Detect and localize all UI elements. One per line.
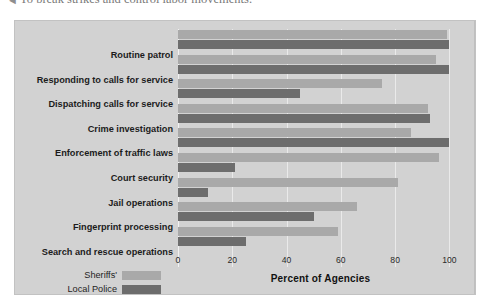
bar-row: [178, 201, 463, 226]
bar-row: [178, 54, 463, 79]
bar-sheriffs: [178, 128, 411, 137]
plot-area: [178, 29, 463, 251]
category-label: Responding to calls for service: [25, 75, 173, 85]
bar-local-police: [178, 65, 449, 74]
bar-local-police: [178, 138, 449, 147]
bar-rows: [178, 29, 463, 251]
bar-sheriffs: [178, 104, 428, 113]
legend-item[interactable]: Local Police: [29, 283, 169, 297]
x-axis-title: Percent of Agencies: [178, 273, 463, 284]
bar-local-police: [178, 89, 300, 98]
x-tick-label-20: 20: [228, 255, 238, 265]
bar-sheriffs: [178, 153, 439, 162]
x-tick-label-80: 80: [390, 255, 400, 265]
bar-sheriffs: [178, 30, 447, 39]
legend-label: Sheriffs': [84, 270, 117, 280]
legend-swatch: [122, 285, 161, 294]
category-label: Enforcement of traffic laws: [25, 148, 173, 158]
bar-chart-figure: Routine patrolResponding to calls for se…: [14, 20, 476, 295]
category-label: Court security: [25, 173, 173, 183]
category-label: Search and rescue operations: [25, 247, 173, 257]
page-caption-line: ◄ To break strikes and control labor mov…: [0, 0, 489, 16]
bar-sheriffs: [178, 55, 436, 64]
frame-edge-shade: [474, 21, 475, 294]
category-label: Routine patrol: [25, 50, 173, 60]
bar-local-police: [178, 237, 246, 246]
bar-sheriffs: [178, 227, 338, 236]
bar-sheriffs: [178, 202, 357, 211]
bar-row: [178, 127, 463, 152]
caption-bullet-icon: ◄: [7, 0, 18, 6]
category-label: Jail operations: [25, 198, 173, 208]
bar-sheriffs: [178, 178, 398, 187]
category-label: Crime investigation: [25, 124, 173, 134]
category-label: Dispatching calls for service: [25, 99, 173, 109]
bar-local-police: [178, 163, 235, 172]
bar-row: [178, 78, 463, 103]
bar-local-police: [178, 40, 449, 49]
bar-local-police: [178, 114, 430, 123]
bar-sheriffs: [178, 79, 382, 88]
x-axis-ticks: 020406080100: [178, 255, 463, 269]
category-label: Fingerprint processing: [25, 222, 173, 232]
bar-row: [178, 177, 463, 202]
x-tick-label-0: 0: [176, 255, 181, 265]
legend-label: Local Police: [67, 284, 117, 294]
x-tick-label-40: 40: [282, 255, 292, 265]
bar-row: [178, 226, 463, 251]
bar-local-police: [178, 212, 314, 221]
x-tick-label-60: 60: [336, 255, 346, 265]
bar-row: [178, 152, 463, 177]
chart-legend: Sheriffs'Local Police: [29, 269, 169, 297]
legend-item[interactable]: Sheriffs': [29, 269, 169, 283]
caption-text: To break strikes and control labor movem…: [20, 0, 252, 7]
bar-row: [178, 29, 463, 54]
legend-swatch: [122, 271, 161, 280]
x-tick-label-100: 100: [442, 255, 456, 265]
bar-local-police: [178, 188, 208, 197]
bar-row: [178, 103, 463, 128]
